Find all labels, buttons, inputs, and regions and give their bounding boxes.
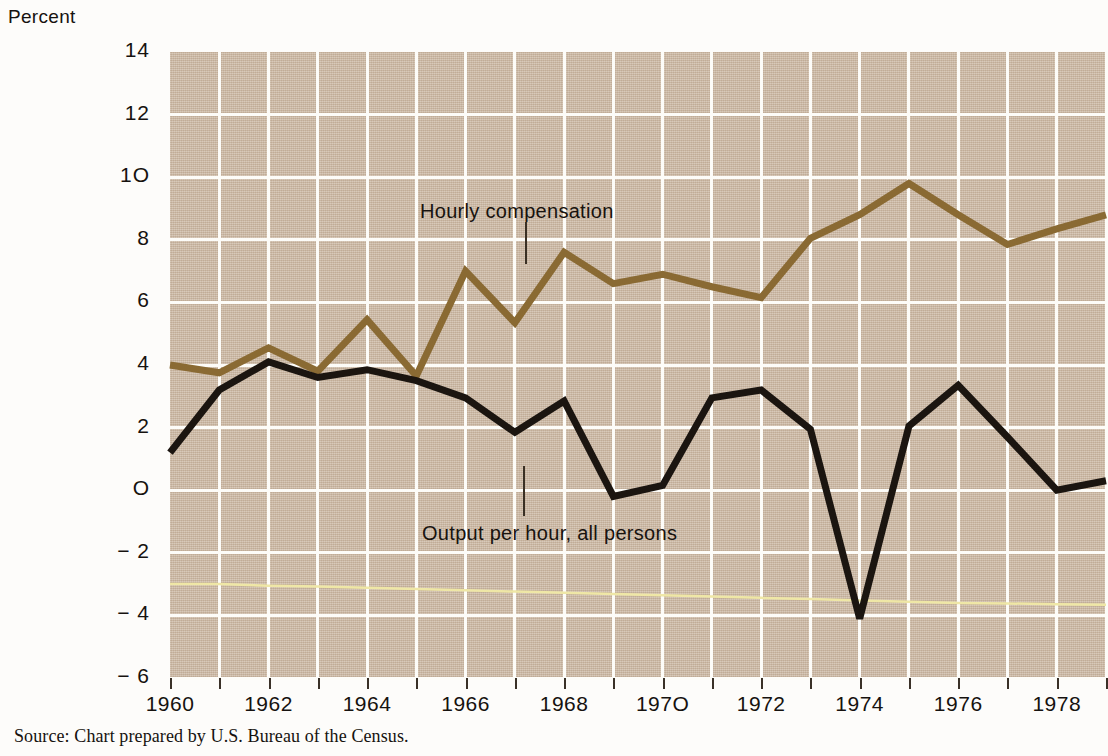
y-axis-tick-label: 8 xyxy=(10,226,150,250)
y-axis-tick-label: − 6 xyxy=(10,664,150,688)
x-axis-tick xyxy=(318,678,320,689)
y-axis-tick-label: 12 xyxy=(10,101,150,125)
x-axis-tick xyxy=(466,678,468,689)
x-axis-tick-label: 197O xyxy=(636,692,689,716)
x-axis-tick-label: 1962 xyxy=(244,692,293,716)
x-axis-tick xyxy=(367,678,369,689)
leader-line-hourly-compensation xyxy=(525,222,527,264)
x-axis-tick xyxy=(515,678,517,689)
x-axis-tick xyxy=(712,678,714,689)
x-axis-tick-label: 1966 xyxy=(441,692,490,716)
x-axis-tick xyxy=(269,678,271,689)
x-axis-tick-label: 1972 xyxy=(737,692,786,716)
y-axis-tick-label: 6 xyxy=(10,288,150,312)
x-axis-tick xyxy=(564,678,566,689)
y-axis-tick-label: − 2 xyxy=(10,539,150,563)
x-axis-tick xyxy=(810,678,812,689)
x-axis-tick xyxy=(416,678,418,689)
x-axis-tick-label: 1976 xyxy=(934,692,983,716)
x-axis-tick-label: 1968 xyxy=(540,692,589,716)
y-axis-tick-label: O xyxy=(10,476,150,500)
x-axis-tick-label: 1964 xyxy=(343,692,392,716)
y-axis-tick-label: 14 xyxy=(10,38,150,62)
x-axis-tick xyxy=(909,678,911,689)
x-axis-tick xyxy=(613,678,615,689)
x-axis-tick xyxy=(860,678,862,689)
annotation-hourly-compensation: Hourly compensation xyxy=(420,200,614,223)
y-axis-tick-label: − 4 xyxy=(10,601,150,625)
y-axis-tick-label: 1O xyxy=(10,163,150,187)
x-axis-tick xyxy=(1007,678,1009,689)
x-axis-tick xyxy=(170,678,172,689)
x-axis-tick-label: 1960 xyxy=(146,692,195,716)
source-note: Source: Chart prepared by U.S. Bureau of… xyxy=(14,726,409,747)
x-axis-tick xyxy=(1057,678,1059,689)
annotation-output-per-hour: Output per hour, all persons xyxy=(422,522,677,545)
x-axis-tick-label: 1978 xyxy=(1032,692,1081,716)
x-axis-tick xyxy=(219,678,221,689)
x-axis-tick xyxy=(958,678,960,689)
leader-line-output-per-hour xyxy=(523,466,525,516)
y-axis-tick-label: 4 xyxy=(10,351,150,375)
y-axis-tick-label: 2 xyxy=(10,414,150,438)
x-axis-tick xyxy=(761,678,763,689)
x-axis-tick-label: 1974 xyxy=(835,692,884,716)
x-axis-tick xyxy=(663,678,665,689)
